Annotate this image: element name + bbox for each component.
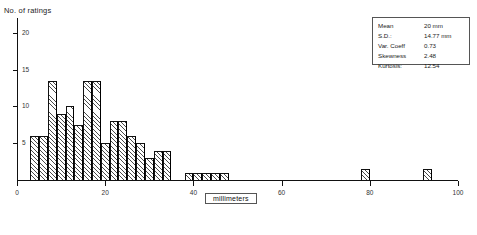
x-tick-label: 60 bbox=[278, 189, 285, 196]
statistics-row: Mean20 mm bbox=[378, 22, 464, 32]
histogram-bar bbox=[361, 169, 370, 180]
histogram-bar bbox=[154, 151, 163, 180]
statistics-value: 0.73 bbox=[424, 42, 464, 52]
x-tick-label: 100 bbox=[453, 189, 464, 196]
histogram-bar bbox=[57, 114, 66, 180]
y-axis-label: No. of ratings bbox=[4, 6, 51, 15]
x-axis-title-box: millimeters bbox=[205, 193, 257, 204]
statistics-table: Mean20 mmS.D.:14.77 mmVar. Coeff0.73Skew… bbox=[378, 22, 464, 72]
x-tick-label: 0 bbox=[15, 189, 19, 196]
statistics-row: Var. Coeff0.73 bbox=[378, 42, 464, 52]
statistics-label: Mean bbox=[378, 22, 424, 32]
histogram-bar bbox=[145, 158, 154, 180]
x-tick-mark bbox=[458, 181, 459, 186]
statistics-row: S.D.:14.77 mm bbox=[378, 32, 464, 42]
x-tick-label: 80 bbox=[366, 189, 373, 196]
histogram-bar bbox=[127, 136, 136, 180]
histogram-bar bbox=[136, 143, 145, 180]
histogram-bar bbox=[118, 121, 127, 180]
histogram-bar bbox=[211, 173, 220, 180]
statistics-label: Var. Coeff bbox=[378, 42, 424, 52]
x-tick-mark bbox=[193, 181, 194, 186]
x-tick-mark bbox=[370, 181, 371, 186]
statistics-label: Kurtosis: bbox=[378, 62, 424, 72]
statistics-value: 2.48 bbox=[424, 52, 464, 62]
histogram-figure: No. of ratings 5101520 020406080100 mill… bbox=[0, 0, 477, 235]
histogram-bar bbox=[163, 151, 172, 180]
x-tick-mark bbox=[282, 181, 283, 186]
statistics-label: Skewness bbox=[378, 52, 424, 62]
x-tick-label: 40 bbox=[190, 189, 197, 196]
histogram-bar bbox=[30, 136, 39, 180]
x-tick-mark bbox=[17, 181, 18, 186]
x-axis-title: millimeters bbox=[213, 195, 249, 202]
x-axis-line bbox=[17, 180, 458, 181]
histogram-bar bbox=[101, 143, 110, 180]
x-tick-label: 20 bbox=[102, 189, 109, 196]
histogram-bar bbox=[48, 81, 57, 180]
histogram-bar bbox=[220, 173, 229, 180]
histogram-bar bbox=[110, 121, 119, 180]
statistics-box: Mean20 mmS.D.:14.77 mmVar. Coeff0.73Skew… bbox=[372, 17, 470, 65]
histogram-bar bbox=[202, 173, 211, 180]
histogram-bar bbox=[83, 81, 92, 180]
statistics-row: Skewness2.48 bbox=[378, 52, 464, 62]
statistics-value: 12.54 bbox=[424, 62, 464, 72]
statistics-label: S.D.: bbox=[378, 32, 424, 42]
histogram-bar bbox=[74, 125, 83, 180]
histogram-bar bbox=[193, 173, 202, 180]
statistics-value: 20 mm bbox=[424, 22, 464, 32]
histogram-bar bbox=[66, 106, 75, 180]
statistics-row: Kurtosis:12.54 bbox=[378, 62, 464, 72]
histogram-bar bbox=[39, 136, 48, 180]
statistics-value: 14.77 mm bbox=[424, 32, 464, 42]
histogram-bar bbox=[185, 173, 194, 180]
histogram-bar bbox=[92, 81, 101, 180]
histogram-bar bbox=[423, 169, 432, 180]
x-tick-mark bbox=[105, 181, 106, 186]
